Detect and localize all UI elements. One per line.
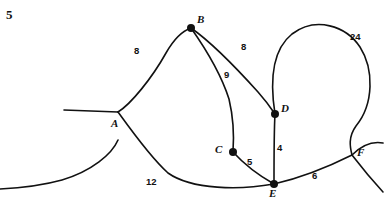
- edge-path-A-B: [118, 28, 191, 112]
- vertex-dot-d: [271, 110, 279, 118]
- edge-weight-ef: 6: [312, 171, 317, 181]
- vertex-dot-c: [229, 148, 237, 156]
- edge-path-D-E: [274, 114, 275, 184]
- vertex-label-f: F: [357, 147, 364, 158]
- edge-path-D-F: [273, 25, 370, 155]
- edge-path-C-E: [233, 152, 274, 184]
- edge-weight-bd: 8: [241, 42, 246, 52]
- edge-path-B-C: [191, 28, 233, 152]
- stub-bottom-left-path: [0, 140, 118, 189]
- vertex-label-c: C: [215, 144, 222, 155]
- vertex-label-d: D: [281, 103, 289, 114]
- vertex-dots-group: [187, 24, 279, 188]
- edge-path-A-E: [118, 112, 274, 188]
- vertex-label-e: E: [269, 188, 276, 199]
- stub-left-path: [64, 110, 118, 112]
- edge-weight-bc: 9: [224, 70, 229, 80]
- figure-canvas: 5 ABCDEF 8891254624: [0, 0, 386, 205]
- edge-weight-df: 24: [350, 32, 361, 42]
- edge-weight-ce: 5: [247, 157, 252, 167]
- edge-weight-de: 4: [277, 143, 282, 153]
- stub-right-lower-path: [352, 155, 383, 192]
- graph-svg: [0, 0, 386, 205]
- edge-weight-ab: 8: [134, 46, 139, 56]
- problem-number: 5: [6, 8, 13, 21]
- edge-weight-ae: 12: [146, 177, 157, 187]
- vertex-label-a: A: [111, 118, 118, 129]
- vertex-label-b: B: [197, 14, 204, 25]
- edge-paths-group: [0, 25, 383, 192]
- vertex-dot-b: [187, 24, 195, 32]
- edge-path-B-D: [191, 28, 275, 114]
